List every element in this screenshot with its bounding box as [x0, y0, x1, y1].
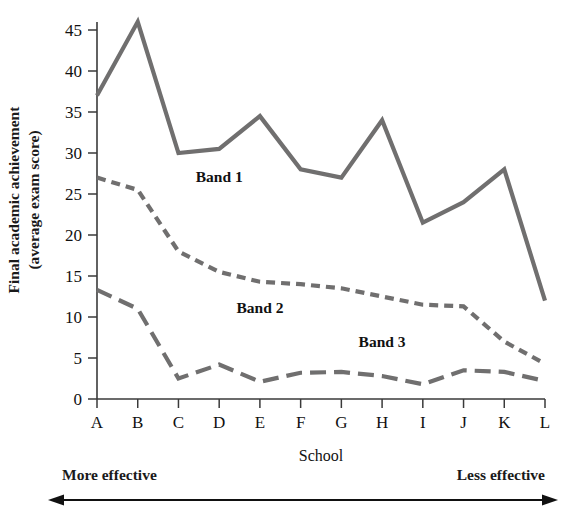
- x-tick-label: E: [255, 413, 265, 432]
- chart-figure: Final academic achievement (average exam…: [0, 0, 563, 517]
- x-tick-label: B: [132, 413, 143, 432]
- y-tick-label: 45: [65, 21, 82, 40]
- y-tick-label: 20: [65, 226, 82, 245]
- x-tick-label: H: [376, 413, 388, 432]
- series-line-band-1: [97, 22, 545, 301]
- y-tick-label: 0: [74, 390, 83, 409]
- x-axis-ticks: ABCDEFGHIJKL: [91, 399, 550, 432]
- x-tick-label: L: [540, 413, 550, 432]
- x-tick-label: K: [498, 413, 511, 432]
- y-tick-label: 15: [65, 267, 82, 286]
- double-headed-arrow-icon: [0, 488, 563, 512]
- series-annotation-band-3: Band 3: [359, 333, 406, 350]
- x-tick-label: G: [335, 413, 347, 432]
- series-line-band-3: [97, 290, 545, 384]
- y-axis-ticks: 051015202530354045: [65, 21, 97, 409]
- y-tick-label: 5: [74, 349, 83, 368]
- series-annotation-band-1: Band 1: [196, 168, 243, 185]
- x-tick-label: F: [296, 413, 305, 432]
- less-effective-label: Less effective: [457, 466, 545, 484]
- y-tick-label: 40: [65, 62, 82, 81]
- x-tick-label: J: [460, 413, 467, 432]
- x-tick-label: C: [173, 413, 184, 432]
- y-tick-label: 30: [65, 144, 82, 163]
- y-tick-label: 25: [65, 185, 82, 204]
- x-tick-label: I: [420, 413, 426, 432]
- y-tick-label: 10: [65, 308, 82, 327]
- series-annotation-band-2: Band 2: [236, 299, 283, 316]
- x-axis-title: School: [299, 447, 344, 464]
- more-effective-label: More effective: [62, 466, 157, 484]
- x-tick-label: D: [213, 413, 225, 432]
- effectiveness-annotation: More effective Less effective: [0, 466, 563, 517]
- series-line-band-2: [97, 178, 545, 364]
- x-tick-label: A: [91, 413, 104, 432]
- y-tick-label: 35: [65, 103, 82, 122]
- chart-plot-area: 051015202530354045 ABCDEFGHIJKL Band 1 B…: [0, 0, 563, 466]
